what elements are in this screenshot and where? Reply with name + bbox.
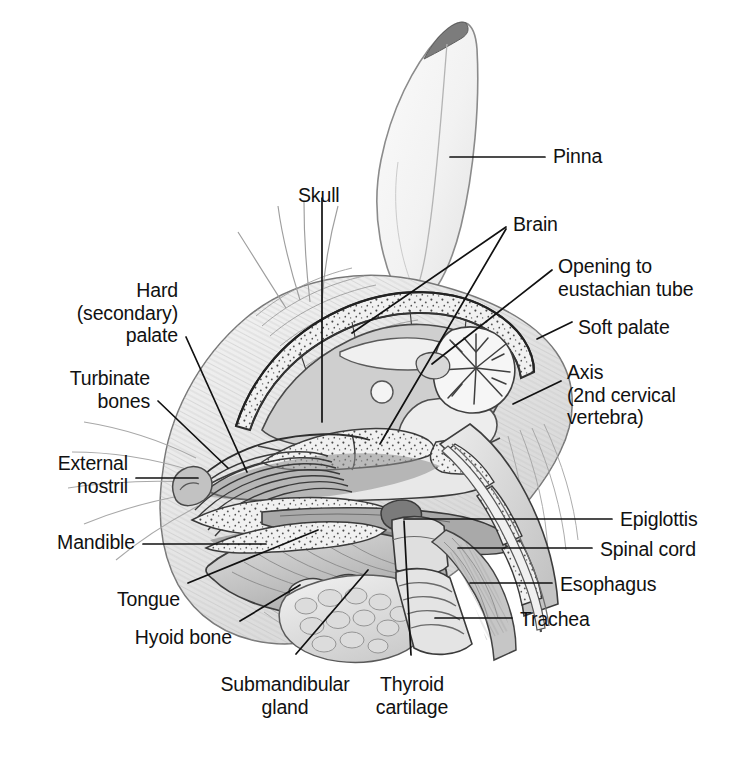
- label-pinna: Pinna: [553, 145, 602, 168]
- label-skull: Skull: [298, 184, 340, 207]
- label-mandible: Mandible: [57, 531, 135, 554]
- label-tongue: Tongue: [117, 588, 180, 611]
- label-external-nostril: External nostril: [58, 452, 128, 497]
- label-thyroid-cartilage: Thyroid cartilage: [376, 673, 448, 718]
- label-epiglottis: Epiglottis: [620, 508, 698, 531]
- label-opening-to-eustachian-tube: Opening to eustachian tube: [558, 255, 693, 300]
- soft-palate-leader: [537, 322, 572, 339]
- label-turbinate-bones: Turbinate bones: [70, 367, 150, 412]
- pinna-structure: [377, 22, 478, 309]
- label-axis: Axis (2nd cervical vertebra): [567, 361, 676, 429]
- label-hard-secondary-palate: Hard (secondary) palate: [77, 279, 178, 347]
- label-submandibular-gland: Submandibular gland: [220, 673, 349, 718]
- label-brain: Brain: [513, 213, 558, 236]
- label-soft-palate: Soft palate: [578, 316, 670, 339]
- label-esophagus: Esophagus: [560, 573, 656, 596]
- label-trachea: Trachea: [520, 608, 590, 631]
- label-hyoid-bone: Hyoid bone: [135, 626, 232, 649]
- figure-canvas: Pinna Skull Brain Opening to eustachian …: [0, 0, 730, 762]
- label-spinal-cord: Spinal cord: [600, 538, 696, 561]
